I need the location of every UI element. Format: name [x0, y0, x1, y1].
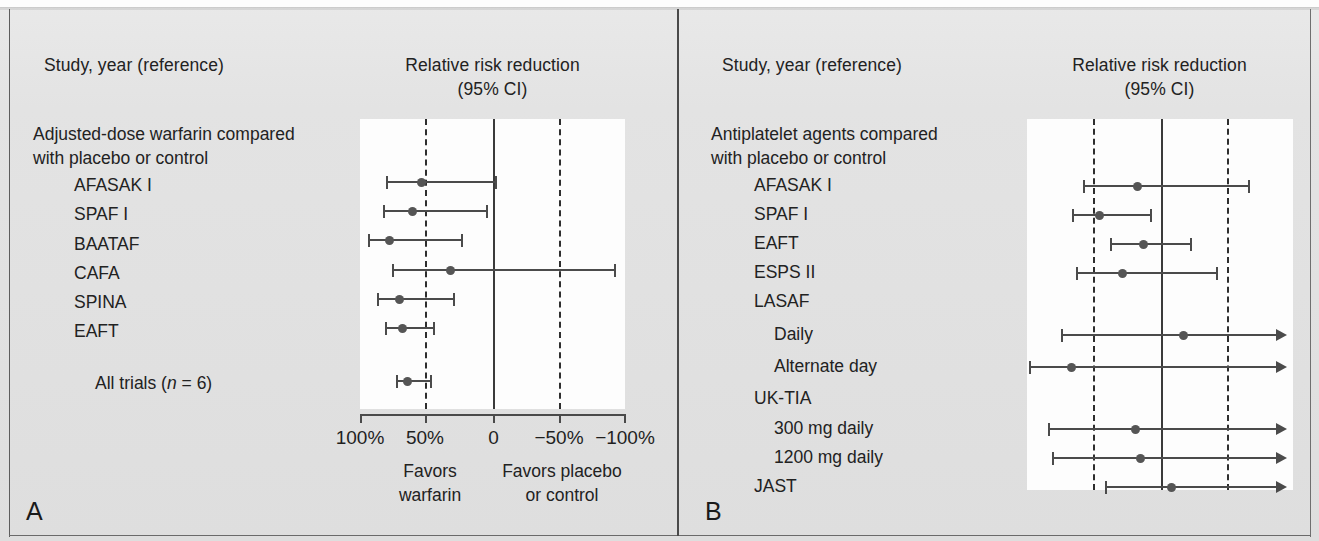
panel-b-row-label-esps-ii: ESPS II: [754, 262, 815, 283]
panel-b-row-label-daily: Daily: [774, 324, 813, 345]
panel-a-ticklabel-100: 100%: [320, 427, 400, 449]
figure-container: Study, year (reference) Relative risk re…: [0, 0, 1319, 541]
panel-a-column-header-rrr-line1: Relative risk reduction: [360, 55, 625, 76]
panel-b-dashed-line-minus50: [1227, 119, 1229, 490]
panel-a-row-label-baataf: BAATAF: [74, 234, 139, 255]
panel-a-row-label-spaf-i: SPAF I: [74, 204, 128, 225]
panel-b-column-header-rrr-line2: (95% CI): [1027, 79, 1292, 100]
panel-a-tick-minus50: [559, 414, 561, 423]
panel-b: Study, year (reference) Relative risk re…: [679, 0, 1319, 541]
panel-a-tick-100: [360, 414, 362, 423]
panel-a-column-header-study: Study, year (reference): [44, 55, 224, 76]
panel-b-row-label-uk-tia: UK-TIA: [754, 388, 811, 409]
panel-b-group-label-line1: Antiplatelet agents compared: [711, 122, 938, 146]
panel-b-arrow-lasaf-daily: [1276, 329, 1287, 341]
panel-a-tick-minus100: [624, 414, 626, 423]
panel-a-plot-area: [360, 119, 625, 409]
panel-a-footnote-right-line2: or control: [492, 484, 632, 506]
panel-a-reference-line-0: [493, 119, 495, 409]
panel-b-row-label-lasaf: LASAF: [754, 291, 809, 312]
panel-b-row-label-spaf-i: SPAF I: [754, 204, 808, 225]
panel-b-row-label-jast: JAST: [754, 476, 797, 497]
panel-b-column-header-study: Study, year (reference): [722, 55, 902, 76]
panel-b-arrow-jast: [1276, 481, 1287, 493]
panel-b-arrow-uktia-300: [1276, 423, 1287, 435]
panel-a-ticklabel-0: 0: [471, 427, 516, 449]
panel-b-arrow-uktia-1200: [1276, 452, 1287, 464]
panel-a-column-header-rrr-line2: (95% CI): [360, 79, 625, 100]
panel-b-plot-area: [1027, 119, 1293, 490]
panel-a: Study, year (reference) Relative risk re…: [0, 0, 677, 541]
panel-b-row-label-1200mg: 1200 mg daily: [774, 447, 883, 468]
panel-b-arrow-lasaf-alternate: [1276, 361, 1287, 373]
panel-a-tick-50: [425, 414, 427, 423]
panel-b-group-label-line2: with placebo or control: [711, 146, 886, 170]
panel-b-letter: B: [705, 497, 722, 526]
panel-b-row-label-300mg: 300 mg daily: [774, 418, 873, 439]
panel-a-row-label-all-trials: All trials (n = 6): [95, 373, 212, 394]
panel-a-group-label-line1: Adjusted-dose warfarin compared: [33, 122, 295, 146]
panel-a-row-label-eaft: EAFT: [74, 321, 119, 342]
panel-a-dashed-line-50: [425, 119, 427, 409]
panel-a-ticklabel-50: 50%: [391, 427, 459, 449]
all-trials-text: All trials (n = 6): [95, 373, 212, 393]
panel-b-row-label-alternate-day: Alternate day: [774, 356, 877, 377]
panel-a-group-label-line2: with placebo or control: [33, 146, 208, 170]
panel-a-row-label-cafa: CAFA: [74, 263, 120, 284]
panel-a-footnote-right-line1: Favors placebo: [492, 460, 632, 482]
panel-b-reference-line-0: [1161, 119, 1163, 490]
panel-a-footnote-left-line2: warfarin: [385, 484, 475, 506]
panel-a-tick-0: [493, 414, 495, 423]
panel-b-column-header-rrr-line1: Relative risk reduction: [1027, 55, 1292, 76]
panel-a-ticklabel-minus100: −100%: [580, 427, 670, 449]
panel-a-row-label-afasak-i: AFASAK I: [74, 175, 152, 196]
panel-b-row-label-eaft: EAFT: [754, 233, 799, 254]
panel-a-letter: A: [26, 497, 43, 526]
panel-b-dashed-line-50: [1093, 119, 1095, 490]
panel-a-dashed-line-minus50: [559, 119, 561, 409]
panel-a-footnote-left-line1: Favors: [385, 460, 475, 482]
panel-a-row-label-spina: SPINA: [74, 292, 127, 313]
panel-b-row-label-afasak-i: AFASAK I: [754, 175, 832, 196]
